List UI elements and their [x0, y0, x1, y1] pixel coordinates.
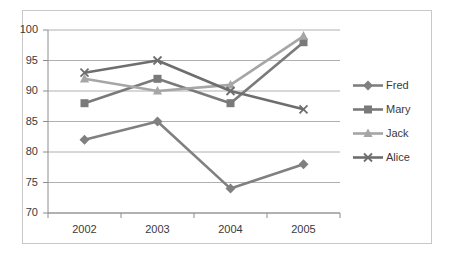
- legend-label: Fred: [386, 79, 409, 91]
- series-jack: [80, 31, 308, 95]
- y-axis-tick-label: 80: [8, 145, 38, 157]
- y-axis-tick-label: 70: [8, 206, 38, 218]
- data-point-diamond: [363, 81, 373, 91]
- legend-item-alice[interactable]: Alice: [352, 150, 410, 163]
- x-axis-tick-label: 2004: [201, 223, 261, 235]
- data-point-triangle: [299, 31, 308, 40]
- data-point-square: [364, 106, 372, 114]
- data-point-square: [227, 99, 235, 107]
- x-axis-tick-label: 2002: [55, 223, 115, 235]
- legend-label: Jack: [386, 127, 409, 139]
- axis-lines: [43, 30, 340, 218]
- data-point-diamond: [299, 159, 309, 169]
- y-axis-tick-label: 75: [8, 176, 38, 188]
- legend-item-jack[interactable]: Jack: [352, 126, 410, 139]
- series-line: [85, 36, 304, 91]
- data-point-diamond: [80, 135, 90, 145]
- series-mary: [81, 38, 308, 107]
- gridlines: [48, 30, 340, 213]
- y-axis-tick-label: 100: [8, 23, 38, 35]
- x-axis-tick-label: 2003: [128, 223, 188, 235]
- series-line: [85, 42, 304, 103]
- legend-item-mary[interactable]: Mary: [352, 102, 410, 115]
- y-axis-tick-label: 95: [8, 54, 38, 66]
- legend-key-diamond-icon: [352, 78, 384, 91]
- data-point-square: [154, 75, 162, 83]
- y-axis-tick-label: 90: [8, 84, 38, 96]
- y-axis-tick-label: 85: [8, 115, 38, 127]
- legend-item-fred[interactable]: Fred: [352, 78, 410, 91]
- line-chart: 100959085807570 2002200320042005 FredMar…: [0, 0, 450, 260]
- legend-key-triangle-icon: [352, 126, 384, 139]
- chart-legend: FredMaryJackAlice: [352, 78, 410, 163]
- data-point-square: [81, 99, 89, 107]
- legend-key-cross-icon: [352, 150, 384, 163]
- legend-key-square-icon: [352, 102, 384, 115]
- legend-label: Alice: [386, 151, 410, 163]
- series-line: [85, 122, 304, 189]
- legend-label: Mary: [386, 103, 410, 115]
- x-axis-tick-label: 2005: [274, 223, 334, 235]
- series-layer: [80, 31, 309, 194]
